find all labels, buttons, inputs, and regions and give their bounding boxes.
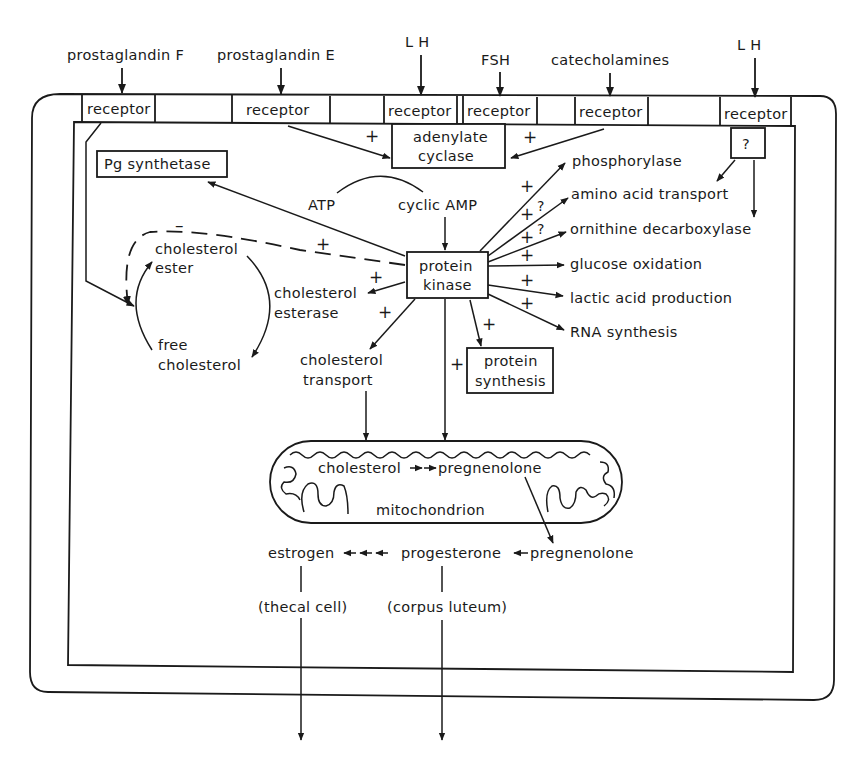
effect-glucose-oxidation: glucose oxidation [570, 256, 702, 272]
cholesterol-transport-label-2: transport [303, 372, 373, 388]
progesterone-label: progesterone [401, 545, 501, 561]
minus-sign: – [175, 215, 184, 235]
pg-synthetase-node: Pg synthetase [97, 151, 227, 177]
synthesis-label: synthesis [475, 373, 546, 389]
plus-sign: + [520, 270, 534, 290]
question-label: ? [742, 136, 750, 152]
plus-sign: + [520, 227, 534, 247]
pg-synthetase-label: Pg synthetase [104, 156, 211, 172]
protein-synthesis-node: protein synthesis [467, 348, 553, 393]
mitochondrion-label: mitochondrion [376, 502, 485, 518]
plus-sign: + [520, 293, 534, 313]
unknown-mediator-node: ? [731, 128, 765, 158]
cholesterol-cycle: cholesterol ester free cholesterol + – [126, 215, 405, 373]
receptor-lh: receptor [388, 103, 452, 119]
kinase-effects: + + ? + ? + + + phosphorylase amino acid… [480, 153, 751, 340]
protein-kinase-node: protein kinase [407, 252, 488, 298]
receptor-fsh: receptor [467, 103, 531, 119]
plus-sign: + [369, 267, 383, 287]
estrogen-label: estrogen [268, 545, 334, 561]
plus-sign: + [520, 204, 534, 224]
hormone-fsh: FSH [481, 52, 510, 68]
effect-phosphorylase: phosphorylase [572, 153, 682, 169]
plus-sign: + [450, 354, 464, 374]
arrow-unknown-to-amino-acid [717, 160, 735, 181]
question-mark: ? [537, 198, 545, 214]
cyclic-amp-label: cyclic AMP [398, 197, 477, 213]
effect-amino-acid-transport: amino acid transport [571, 186, 728, 202]
effect-rna-synthesis: RNA synthesis [570, 324, 678, 340]
hormone-catecholamines: catecholamines [551, 52, 669, 68]
plus-sign: + [523, 127, 537, 147]
mito-cholesterol-label: cholesterol [318, 460, 401, 476]
question-mark: ? [537, 221, 545, 237]
mito-pregnenolone-label: pregnenolone [438, 460, 542, 476]
adenylate-label: adenylate [413, 129, 488, 145]
protein-label: protein [484, 353, 538, 369]
cholesterol-esterase-label-2: esterase [274, 305, 339, 321]
receptor-pgf: receptor [87, 101, 151, 117]
hormone-prostaglandin-e: prostaglandin E [217, 47, 335, 63]
plus-sign: + [520, 245, 534, 265]
atp-label: ATP [308, 197, 335, 213]
plus-sign: + [316, 234, 330, 254]
protein-label: protein [419, 258, 473, 274]
effect-ornithine-decarboxylase: ornithine decarboxylase [570, 221, 751, 237]
arrow-kinase-to-transport [370, 299, 415, 349]
thecal-cell-label: (thecal cell) [258, 599, 347, 615]
cholesterol-transport-label-1: cholesterol [300, 352, 383, 368]
cyclase-label: cyclase [418, 148, 474, 164]
cholesterol-esterase-label-1: cholesterol [274, 285, 357, 301]
corpus-luteum-label: (corpus luteum) [387, 599, 507, 615]
kinase-label: kinase [423, 277, 472, 293]
mitochondrion: cholesterol pregnenolone mitochondrion [270, 441, 622, 523]
arrow-pregnenolone-out [525, 477, 553, 543]
hormone-lh-2: L H [737, 37, 762, 53]
cholesterol-ester-label-2: ester [155, 260, 194, 276]
steroidogenesis-chain: estrogen progesterone pregnenolone (thec… [258, 545, 634, 740]
hormone-inputs: prostaglandin F prostaglandin E L H FSH … [67, 34, 762, 97]
effect-lactic-acid-production: lactic acid production [570, 290, 732, 306]
receptor-labels: receptor receptor receptor receptor rece… [87, 101, 788, 122]
plus-sign: + [378, 302, 392, 322]
arrow-kinase-to-protein-synthesis [470, 300, 481, 346]
atp-to-camp-arc [337, 176, 423, 193]
free-cholesterol-label-1: free [158, 337, 188, 353]
receptor-catecholamines: receptor [579, 104, 643, 120]
plus-sign: + [482, 314, 496, 334]
plus-sign: + [365, 126, 379, 146]
plus-sign: + [520, 176, 534, 196]
cholesterol-ester-label-1: cholesterol [155, 241, 238, 257]
hormone-prostaglandin-f: prostaglandin F [67, 47, 184, 63]
receptor-pge: receptor [246, 102, 310, 118]
receptor-lh-2: receptor [724, 106, 788, 122]
pregnenolone-label: pregnenolone [530, 545, 634, 561]
hormone-lh-1: L H [405, 34, 430, 50]
adenylate-cyclase-node: adenylate cyclase [392, 124, 505, 168]
free-cholesterol-label-2: cholesterol [158, 357, 241, 373]
ovarian-cell-signaling-diagram: prostaglandin F prostaglandin E L H FSH … [0, 0, 856, 760]
